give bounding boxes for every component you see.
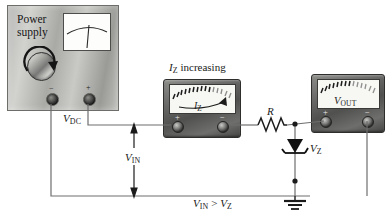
ground-symbol [284, 196, 306, 209]
condition-left-symbol: V [193, 197, 200, 209]
resistor-symbol-label: R [267, 105, 274, 117]
resistor-label: R [267, 106, 274, 117]
zener-symbol-label: V [310, 142, 317, 154]
condition-label: VIN > VZ [193, 198, 232, 211]
junction-dot-top [292, 121, 297, 126]
vdc-subscript: DC [70, 117, 81, 126]
vin-label: VIN [125, 152, 140, 165]
vdc-label: VDC [63, 113, 81, 126]
vin-subscript: IN [132, 156, 141, 165]
condition-right-symbol: V [220, 197, 227, 209]
wire-positive-to-ammeter [88, 104, 171, 125]
condition-operator: > [208, 197, 220, 209]
vdc-symbol: V [63, 112, 70, 124]
vin-symbol: V [125, 151, 132, 163]
resistor-symbol [258, 118, 287, 131]
condition-right-subscript: Z [227, 202, 232, 211]
junction-dot-bottom [292, 178, 297, 183]
circuit-wiring-layer [0, 0, 388, 218]
circuit-diagram-figure: Power supply − + [0, 0, 388, 218]
zener-diode-symbol [282, 139, 308, 153]
zener-label: VZ [310, 143, 322, 156]
zener-subscript-label: Z [317, 147, 322, 156]
